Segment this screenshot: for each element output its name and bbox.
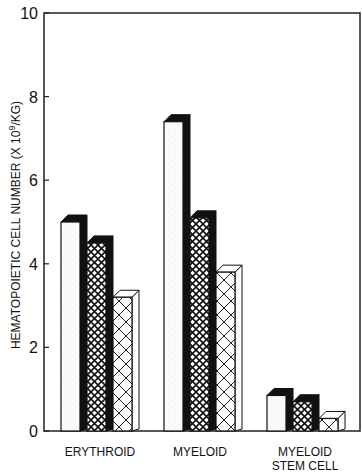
bar-front bbox=[87, 243, 106, 431]
bar-front bbox=[267, 395, 286, 431]
bar-front bbox=[216, 272, 235, 431]
y-tick-label: 6 bbox=[29, 172, 38, 189]
bar-side bbox=[183, 115, 190, 431]
category-label: MYELOID bbox=[173, 445, 227, 459]
bar-front bbox=[190, 218, 209, 431]
y-axis-title: HEMATOPOIETIC CELL NUMBER (X 109/KG) bbox=[7, 101, 23, 349]
bar-group-erythroid bbox=[61, 215, 139, 431]
bar-front bbox=[113, 297, 132, 431]
bar-front bbox=[293, 402, 312, 431]
y-tick-label: 2 bbox=[29, 339, 38, 356]
bar-side bbox=[106, 236, 113, 431]
bar-side bbox=[132, 290, 139, 431]
category-labels: ERYTHROIDMYELOIDMYELOIDSTEM CELL bbox=[65, 445, 339, 473]
y-tick-label: 0 bbox=[29, 423, 38, 440]
bar-chart: 0246810 ERYTHROIDMYELOIDMYELOIDSTEM CELL… bbox=[0, 0, 362, 473]
category-label: STEM CELL bbox=[272, 459, 339, 473]
bar-side bbox=[235, 265, 242, 431]
bar-side bbox=[80, 215, 87, 431]
bar-side bbox=[209, 211, 216, 431]
bar-group-myeloid-stem-cell bbox=[267, 388, 345, 431]
bar-group-myeloid bbox=[164, 115, 242, 431]
bar-front bbox=[319, 418, 338, 431]
y-tick-label: 4 bbox=[29, 256, 38, 273]
y-tick-label: 10 bbox=[20, 5, 38, 22]
bars bbox=[61, 115, 345, 431]
bar-front bbox=[164, 122, 183, 431]
bar-front bbox=[61, 222, 80, 431]
category-label: MYELOID bbox=[278, 445, 332, 459]
y-tick-label: 8 bbox=[29, 89, 38, 106]
category-label: ERYTHROID bbox=[65, 445, 136, 459]
